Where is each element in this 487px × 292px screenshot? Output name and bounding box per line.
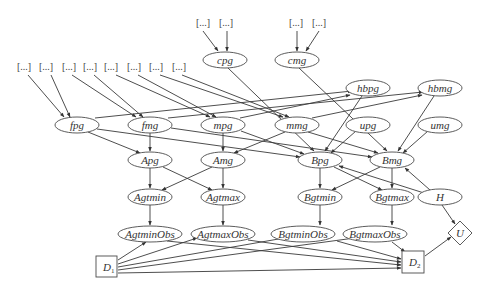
svg-text:BgtmaxObs: BgtmaxObs xyxy=(349,228,400,240)
edge-d1-agtminobs xyxy=(118,242,146,260)
edge-agtmaxobs-d2 xyxy=(248,240,401,262)
bracket-fpg-2: [...] xyxy=(39,61,53,72)
node-fpg: fpg xyxy=(55,117,99,133)
edge-fpg-bpg xyxy=(97,129,300,157)
edge-mpg-hbpg xyxy=(240,95,350,118)
edge-h-bmg xyxy=(405,168,430,190)
edge-bracket-fmg-2 xyxy=(94,75,143,117)
bracket-mmg-2: [...] xyxy=(172,61,186,72)
edge-d2-u xyxy=(425,237,451,256)
edge-bracket-mmg-1 xyxy=(160,75,283,117)
svg-text:umg: umg xyxy=(431,119,450,131)
svg-text:upg: upg xyxy=(360,119,377,131)
node-bgtmax: Bgtmax xyxy=(370,189,414,205)
edge-bracket-cpg-1 xyxy=(203,31,218,51)
bracket-mmg-1: [...] xyxy=(149,61,163,72)
edge-mmg-hbmg xyxy=(312,95,422,118)
node-agtmaxobs: AgtmaxObs xyxy=(191,226,255,242)
edge-cpg-bpg xyxy=(228,68,314,151)
node-apg: Apg xyxy=(128,152,172,168)
node-h: H xyxy=(418,189,462,205)
node-agtminobs: AgtminObs xyxy=(118,226,182,242)
svg-text:BgtminObs: BgtminObs xyxy=(278,228,328,240)
svg-text:mmg: mmg xyxy=(286,119,308,131)
edge-bracket-fmg-1 xyxy=(72,75,136,117)
node-bgtmaxobs: BgtmaxObs xyxy=(343,226,407,242)
bracket-cmg-1: [...] xyxy=(289,17,303,28)
svg-text:AgtmaxObs: AgtmaxObs xyxy=(196,228,248,240)
edge-fmg-hbmg xyxy=(168,92,423,118)
influence-diagram: [...] [...] [...] [...] [...] [...] [...… xyxy=(0,0,487,292)
svg-text:Amg: Amg xyxy=(212,154,234,166)
svg-text:Agtmin: Agtmin xyxy=(133,191,166,203)
node-amg: Amg xyxy=(201,152,245,168)
edge-upg-bpg xyxy=(331,131,356,153)
bracket-cpg-2: [...] xyxy=(219,17,233,28)
edge-agtminobs-d2 xyxy=(167,241,401,265)
svg-text:AgtminObs: AgtminObs xyxy=(124,228,175,240)
svg-text:cmg: cmg xyxy=(288,54,307,66)
bracket-mpg-1: [...] xyxy=(104,61,118,72)
bracket-cmg-2: [...] xyxy=(312,17,326,28)
svg-text:Bpg: Bpg xyxy=(311,154,329,166)
node-bpg: Bpg xyxy=(298,152,342,168)
svg-text:fmg: fmg xyxy=(142,119,159,131)
edge-umg-bmg xyxy=(403,131,428,153)
edge-fpg-apg xyxy=(88,132,140,153)
edge-d1-d2 xyxy=(118,268,401,273)
node-bgtminobs: BgtminObs xyxy=(271,226,335,242)
node-cmg: cmg xyxy=(275,52,319,68)
svg-text:cpg: cpg xyxy=(217,54,233,66)
edge-bracket-fpg-1 xyxy=(28,75,64,117)
edge-mmg-amg xyxy=(234,132,285,153)
node-umg: umg xyxy=(418,117,462,133)
svg-text:fpg: fpg xyxy=(70,119,85,131)
node-bmg: Bmg xyxy=(370,152,414,168)
bracket-fpg-1: [...] xyxy=(17,61,31,72)
edge-fpg-hbpg xyxy=(95,91,352,118)
node-bgtmin: Bgtmin xyxy=(298,189,342,205)
node-fmg: fmg xyxy=(128,117,172,133)
node-mmg: mmg xyxy=(275,117,319,133)
bracket-mpg-2: [...] xyxy=(127,61,141,72)
svg-text:Agtmax: Agtmax xyxy=(205,191,240,203)
node-hbmg: hbmg xyxy=(418,80,462,96)
svg-text:hbpg: hbpg xyxy=(357,82,380,94)
edge-bracket-fpg-2 xyxy=(51,75,70,117)
svg-text:Bmg: Bmg xyxy=(382,154,403,166)
node-mpg: mpg xyxy=(201,117,245,133)
edge-h-u xyxy=(442,205,455,224)
svg-text:H: H xyxy=(435,191,445,203)
node-u: U xyxy=(448,221,472,245)
edge-h-bpg xyxy=(339,166,424,193)
node-cpg: cpg xyxy=(203,52,247,68)
node-upg: upg xyxy=(346,117,390,133)
edge-bmg-bgtmin xyxy=(332,167,380,190)
svg-text:mpg: mpg xyxy=(214,119,233,131)
bracket-cpg-1: [...] xyxy=(196,17,210,28)
svg-text:Bgtmin: Bgtmin xyxy=(304,191,336,203)
bracket-fmg-2: [...] xyxy=(83,61,97,72)
svg-text:hbmg: hbmg xyxy=(428,82,453,94)
node-d1: D1 xyxy=(96,256,117,277)
edge-bgtminobs-d2 xyxy=(337,241,401,259)
node-agtmin: Agtmin xyxy=(128,189,172,205)
edge-bracket-mpg-2 xyxy=(138,75,216,117)
edge-bgtmaxobs-d2 xyxy=(392,242,405,252)
edge-bracket-cmg-2 xyxy=(306,31,319,51)
node-d2: D2 xyxy=(402,251,424,273)
svg-text:U: U xyxy=(456,227,465,239)
svg-text:Bgtmax: Bgtmax xyxy=(375,191,409,203)
bracket-fmg-1: [...] xyxy=(62,61,76,72)
node-hbpg: hbpg xyxy=(346,80,390,96)
svg-text:Apg: Apg xyxy=(140,154,159,166)
edge-bpg-bgtmax xyxy=(334,167,382,190)
node-agtmax: Agtmax xyxy=(201,189,245,205)
